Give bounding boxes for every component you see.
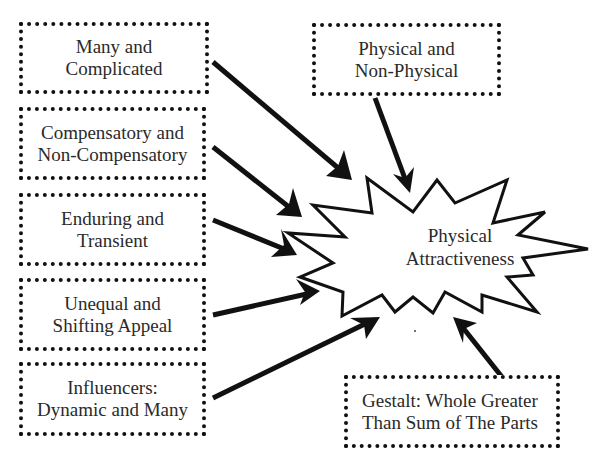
arrow-physical-to-center	[375, 98, 407, 184]
factor-line-2: Than Sum of The Parts	[362, 412, 538, 434]
factor-box-influencers: Influencers: Dynamic and Many	[19, 362, 206, 436]
factor-line-2: Transient	[77, 230, 148, 252]
factor-box-physical: Physical and Non-Physical	[312, 23, 501, 96]
arrow-gestalt-to-center	[460, 324, 502, 377]
center-line-1: Physical	[380, 224, 540, 247]
factor-line-1: Gestalt: Whole Greater	[362, 390, 538, 412]
factor-box-compensatory: Compensatory and Non-Compensatory	[19, 107, 206, 180]
arrow-unequal-to-center	[213, 293, 311, 315]
factor-line-1: Unequal and	[64, 293, 161, 315]
factor-line-1: Compensatory and	[41, 122, 184, 144]
factor-line-2: Shifting Appeal	[53, 315, 173, 337]
factor-line-2: Non-Compensatory	[38, 144, 188, 166]
factor-line-1: Influencers:	[67, 377, 158, 399]
factor-box-enduring: Enduring and Transient	[19, 193, 206, 266]
factor-box-unequal: Unequal and Shifting Appeal	[19, 278, 206, 351]
center-concept-label: Physical Attractiveness	[380, 224, 540, 270]
factor-line-2: Complicated	[65, 58, 162, 80]
factor-line-1: Many and	[76, 36, 153, 58]
factor-box-many: Many and Complicated	[19, 22, 209, 94]
scan-speck	[414, 330, 416, 332]
factor-line-2: Dynamic and Many	[37, 399, 188, 421]
factor-box-gestalt: Gestalt: Whole Greater Than Sum of The P…	[344, 375, 560, 448]
arrow-compensatory-to-center	[213, 147, 294, 211]
arrow-enduring-to-center	[213, 220, 289, 251]
factor-line-1: Enduring and	[61, 208, 164, 230]
factor-line-1: Physical and	[358, 38, 455, 60]
center-line-2: Attractiveness	[380, 247, 540, 270]
factor-line-2: Non-Physical	[355, 60, 458, 82]
arrowhead-many	[326, 150, 352, 180]
